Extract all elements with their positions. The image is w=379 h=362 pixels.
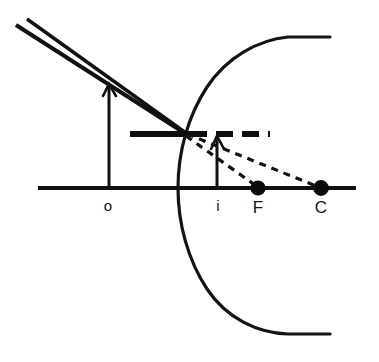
center-curvature-dot bbox=[313, 180, 329, 196]
ray-diagram-canvas: o i F C bbox=[0, 0, 379, 362]
concave-mirror-arc-upper bbox=[178, 37, 330, 188]
focal-point-dot bbox=[250, 180, 265, 195]
center-curvature-label: C bbox=[315, 198, 327, 217]
incident-ray-lower bbox=[27, 19, 186, 133]
incident-ray-upper bbox=[16, 25, 186, 134]
reflected-ray-to-focus bbox=[186, 136, 262, 190]
focal-point-label: F bbox=[253, 198, 263, 217]
image-point-label: i bbox=[216, 197, 219, 214]
optics-diagram-svg: o i F C bbox=[0, 0, 379, 362]
object-point-label: o bbox=[104, 197, 112, 214]
